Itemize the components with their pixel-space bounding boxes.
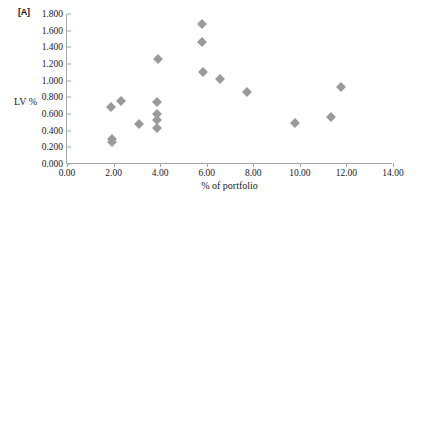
x-tick-mark [207,163,208,167]
y-tick-label: 1.600 [19,26,67,36]
y-tick-label: 0.200 [19,142,67,152]
data-point [198,67,208,77]
chart-panel-a: [A]LV %0.0000.2000.4000.6000.8001.0001.2… [0,0,427,223]
data-point [197,37,207,47]
data-point [116,96,126,106]
x-axis-title: % of portfolio [67,180,392,191]
data-point [290,118,300,128]
data-point [152,123,162,133]
y-tick-label: 0.400 [19,126,67,136]
y-tick-mark [67,30,71,31]
y-tick-label: 1.200 [19,59,67,69]
x-tick-mark [253,163,254,167]
data-point [243,87,253,97]
y-tick-label: 1.400 [19,42,67,52]
x-tick-mark [114,163,115,167]
y-tick-mark [67,130,71,131]
y-tick-mark [67,147,71,148]
y-tick-label: 0.600 [19,109,67,119]
data-point [153,54,163,64]
y-tick-mark [67,64,71,65]
x-tick-mark [300,163,301,167]
data-point [326,112,336,122]
y-tick-mark [67,47,71,48]
y-tick-mark [67,97,71,98]
scatter-figure: [A]LV %0.0000.2000.4000.6000.8001.0001.2… [0,0,427,446]
data-point [336,82,346,92]
data-point [197,19,207,29]
data-point [134,119,144,129]
x-tick-mark [393,163,394,167]
data-point [152,97,162,107]
y-tick-mark [67,80,71,81]
y-tick-label: 1.000 [19,76,67,86]
y-tick-mark [67,114,71,115]
x-tick-mark [67,163,68,167]
data-point [215,74,225,84]
x-tick-mark [346,163,347,167]
x-tick-mark [160,163,161,167]
y-tick-label: 1.800 [19,9,67,19]
y-tick-mark [67,14,71,15]
data-point [106,102,116,112]
plot-area: 0.0000.2000.4000.6000.8001.0001.2001.400… [66,14,392,164]
y-tick-label: 0.800 [19,92,67,102]
